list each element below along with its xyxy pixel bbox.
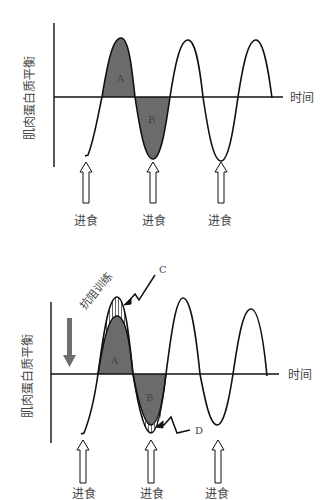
y-axis-label: 肌肉蛋白质平衡 [22,56,37,140]
callout-d-arrow [156,417,190,433]
region-b-label: B [146,392,153,403]
callout-c-arrow [124,275,155,305]
meal-arrow-2 [145,440,157,483]
x-axis-label: 时间 [290,91,314,105]
meal-arrow-1 [80,162,92,203]
meal-label-1: 进食 [72,486,96,500]
meal-label-1: 进食 [74,213,98,228]
y-axis-label: 肌肉蛋白质平衡 [20,334,35,418]
meal-label-2: 进食 [142,213,166,228]
diagram-canvas: A B 时间 肌肉蛋白质平衡 进食 进食 进食 A [0,0,329,500]
region-b-label: B [148,114,155,125]
region-a-label: A [110,355,119,366]
meal-arrow-2 [147,162,159,203]
x-axis-label: 时间 [288,368,312,382]
meal-arrow-1 [77,440,89,483]
meal-label-2: 进食 [140,486,164,500]
top-diagram: A B 时间 肌肉蛋白质平衡 进食 进食 进食 [22,23,314,228]
gray-down-arrow [63,318,76,367]
meal-label-3: 进食 [208,213,232,228]
meal-arrow-3 [215,162,227,203]
callout-c-label: C [159,264,167,275]
meal-arrow-3 [212,440,224,483]
bottom-diagram: A B 抗阻训练 C D 时间 肌肉蛋白质平衡 [20,264,312,500]
region-a-label: A [116,73,125,84]
callout-d-label: D [195,425,203,436]
meal-label-3: 进食 [205,486,229,500]
